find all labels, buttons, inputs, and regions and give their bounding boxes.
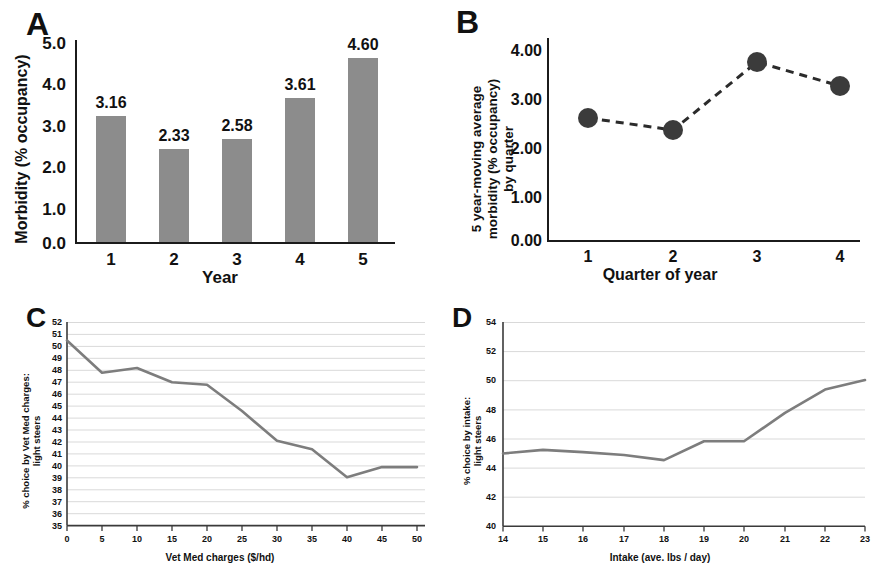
multi-panel-figure: A Morbidity (% occupancy) 5.0 4.0 3.0 2.… xyxy=(0,0,880,580)
bar-label-year-1: 3.16 xyxy=(81,94,141,112)
panel-b-y-tick: 4.00 xyxy=(490,42,542,60)
panel-d-x-tick: 16 xyxy=(570,534,596,544)
panel-b-y-axis-line xyxy=(547,38,549,242)
panel-d-line-chart: D % choice by intake: light steers 54 52… xyxy=(440,300,880,580)
panel-a-y-axis-line xyxy=(75,40,77,244)
panel-d-x-tick: 20 xyxy=(731,534,757,544)
panel-a-x-axis-line xyxy=(75,242,395,244)
panel-d-x-tick: 22 xyxy=(812,534,838,544)
panel-b-y-tick: 3.00 xyxy=(490,91,542,109)
panel-c-x-tick: 0 xyxy=(54,534,80,544)
panel-b-x-tick: 4 xyxy=(823,248,857,266)
panel-c-x-axis-title: Vet Med charges ($/hd) xyxy=(0,552,440,563)
panel-b-x-tick: 2 xyxy=(656,248,690,266)
panel-c-x-tick: 25 xyxy=(229,534,255,544)
bar-year-3 xyxy=(222,139,252,242)
panel-d-x-tick: 14 xyxy=(490,534,516,544)
panel-c-x-tick: 10 xyxy=(124,534,150,544)
panel-a-y-tick: 5.0 xyxy=(22,34,66,54)
panel-c-x-tick: 5 xyxy=(89,534,115,544)
panel-d-x-axis-title: Intake (ave. lbs / day) xyxy=(440,552,880,563)
panel-c-x-tick: 50 xyxy=(404,534,430,544)
panel-c-line-chart: C % choice by Vet Med charges: light ste… xyxy=(0,300,440,580)
bar-year-2 xyxy=(159,149,189,242)
bar-label-year-3: 2.58 xyxy=(207,117,267,135)
panel-b-x-axis-line xyxy=(547,240,860,242)
panel-a-y-tick: 0.0 xyxy=(22,234,66,254)
panel-d-data-line xyxy=(503,380,865,460)
panel-c-x-tick: 20 xyxy=(194,534,220,544)
panel-a-bar-chart: A Morbidity (% occupancy) 5.0 4.0 3.0 2.… xyxy=(0,0,440,300)
panel-a-x-axis-title: Year xyxy=(0,268,440,288)
panel-b-x-tick: 3 xyxy=(740,248,774,266)
panel-c-data-line xyxy=(67,341,417,478)
panel-a-y-tick: 4.0 xyxy=(22,75,66,95)
panel-b-x-tick: 1 xyxy=(571,248,605,266)
panel-b-line-chart: B 5 year-moving average morbidity (% occ… xyxy=(440,0,880,300)
panel-b-y-tick: 2.00 xyxy=(490,140,542,158)
panel-b-y-tick: 0.00 xyxy=(490,232,542,250)
panel-c-x-tick: 40 xyxy=(334,534,360,544)
panel-d-x-tick: 21 xyxy=(772,534,798,544)
panel-d-x-tick: 23 xyxy=(852,534,878,544)
panel-a-x-tick: 1 xyxy=(91,250,131,270)
panel-b-letter: B xyxy=(456,6,479,38)
bar-year-1 xyxy=(96,116,126,242)
panel-a-x-tick: 2 xyxy=(154,250,194,270)
data-point-quarter-2 xyxy=(663,120,683,140)
panel-d-x-tick: 19 xyxy=(691,534,717,544)
bar-year-4 xyxy=(285,98,315,242)
panel-a-y-tick: 3.0 xyxy=(22,117,66,137)
panel-c-x-tick: 15 xyxy=(159,534,185,544)
panel-c-x-tick: 30 xyxy=(264,534,290,544)
panel-b-y-tick: 1.00 xyxy=(490,189,542,207)
panel-a-x-tick: 3 xyxy=(217,250,257,270)
panel-a-x-tick: 5 xyxy=(343,250,383,270)
panel-c-gridlines xyxy=(67,323,425,514)
bar-year-5 xyxy=(348,58,378,242)
data-point-quarter-3 xyxy=(747,52,767,72)
panel-d-gridlines xyxy=(503,323,865,498)
panel-a-y-tick: 2.0 xyxy=(22,158,66,178)
data-point-quarter-4 xyxy=(830,76,850,96)
panel-d-x-tick: 17 xyxy=(611,534,637,544)
panel-a-y-tick: 1.0 xyxy=(22,200,66,220)
panel-c-x-tick: 35 xyxy=(299,534,325,544)
panel-b-y-axis-title-line: 5 year-moving average xyxy=(469,52,485,267)
bar-label-year-5: 4.60 xyxy=(333,36,393,54)
panel-d-x-tick: 18 xyxy=(651,534,677,544)
data-point-quarter-1 xyxy=(578,108,598,128)
panel-c-x-tickmarks xyxy=(67,526,417,531)
panel-d-x-tick: 15 xyxy=(530,534,556,544)
panel-c-x-tick: 45 xyxy=(369,534,395,544)
bar-label-year-4: 3.61 xyxy=(270,76,330,94)
panel-a-x-tick: 4 xyxy=(280,250,320,270)
bar-label-year-2: 2.33 xyxy=(144,127,204,145)
panel-b-x-axis-title: Quarter of year xyxy=(440,266,880,284)
